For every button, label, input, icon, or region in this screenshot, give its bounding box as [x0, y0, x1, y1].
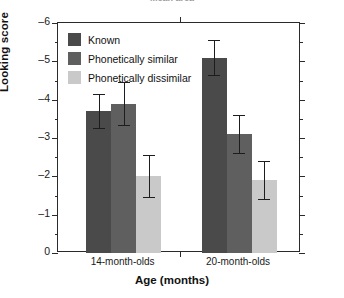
y-tick-major	[299, 61, 305, 62]
y-tick-major	[52, 253, 58, 254]
error-bar-cap-lower	[258, 199, 270, 200]
y-tick-minor	[55, 234, 59, 235]
y-tick-label: 0	[24, 245, 50, 257]
error-bar-cap-lower	[93, 128, 105, 129]
x-tick-label: 20-month-olds	[183, 256, 293, 267]
y-tick-label: –2	[24, 168, 50, 180]
legend-label-phonetically-similar: Phonetically similar	[88, 53, 178, 65]
error-bar-cap-lower	[208, 75, 220, 76]
y-tick-label: –4	[24, 92, 50, 104]
y-tick-minor	[299, 42, 303, 43]
x-tick	[180, 251, 181, 257]
y-tick-major	[52, 23, 58, 24]
y-tick-major	[299, 138, 305, 139]
legend-item-known: Known	[68, 30, 191, 49]
y-tick-minor	[55, 196, 59, 197]
bar	[111, 104, 136, 254]
y-tick-label: –5	[24, 53, 50, 65]
y-tick-major	[299, 100, 305, 101]
error-bar-cap-lower	[233, 153, 245, 154]
y-tick-major	[52, 61, 58, 62]
error-bar-cap-upper	[143, 155, 155, 156]
x-axis-label: Age (months)	[0, 274, 344, 286]
bar	[202, 58, 227, 254]
x-tick-top	[180, 17, 181, 23]
y-tick-minor	[299, 196, 303, 197]
y-tick-minor	[299, 119, 303, 120]
legend-item-phonetically-similar: Phonetically similar	[68, 49, 191, 68]
legend-item-phonetically-dissimilar: Phonetically dissimilar	[68, 68, 191, 87]
bar	[86, 111, 111, 253]
y-tick-minor	[299, 81, 303, 82]
y-tick-minor	[299, 157, 303, 158]
plot-area: Known Phonetically similar Phonetically …	[57, 22, 300, 252]
y-tick-minor	[55, 119, 59, 120]
error-bar-cap-upper	[208, 40, 220, 41]
y-tick-major	[52, 138, 58, 139]
figure: Mean area Looking score Age (months) Kno…	[0, 0, 344, 298]
error-bar	[264, 161, 265, 199]
error-bar	[239, 115, 240, 153]
y-tick-major	[52, 100, 58, 101]
y-tick-major	[299, 176, 305, 177]
y-tick-label: –6	[24, 15, 50, 27]
y-tick-label: –3	[24, 130, 50, 142]
y-tick-minor	[55, 42, 59, 43]
error-bar-cap-upper	[233, 115, 245, 116]
error-bar-cap-lower	[143, 197, 155, 198]
y-tick-major	[52, 215, 58, 216]
error-bar-cap-upper	[258, 161, 270, 162]
y-tick-label: –1	[24, 207, 50, 219]
legend-label-phonetically-dissimilar: Phonetically dissimilar	[88, 72, 191, 84]
legend-swatch-phonetically-similar	[68, 52, 81, 65]
error-bar	[149, 155, 150, 197]
legend: Known Phonetically similar Phonetically …	[68, 30, 191, 87]
y-tick-minor	[55, 81, 59, 82]
error-bar-cap-lower	[118, 125, 130, 126]
error-bar-cap-upper	[118, 82, 130, 83]
y-tick-major	[299, 253, 305, 254]
y-tick-major	[299, 23, 305, 24]
error-bar-cap-upper	[93, 94, 105, 95]
legend-label-known: Known	[88, 34, 120, 46]
figure-title: Mean area	[0, 0, 344, 1]
error-bar	[214, 40, 215, 75]
legend-swatch-phonetically-dissimilar	[68, 71, 81, 84]
x-tick-label: 14-month-olds	[68, 256, 178, 267]
error-bar	[124, 82, 125, 124]
y-axis-label: Looking score	[0, 12, 10, 92]
y-tick-minor	[299, 234, 303, 235]
y-tick-major	[299, 215, 305, 216]
y-tick-minor	[55, 157, 59, 158]
legend-swatch-known	[68, 33, 81, 46]
error-bar	[99, 94, 100, 129]
y-tick-major	[52, 176, 58, 177]
